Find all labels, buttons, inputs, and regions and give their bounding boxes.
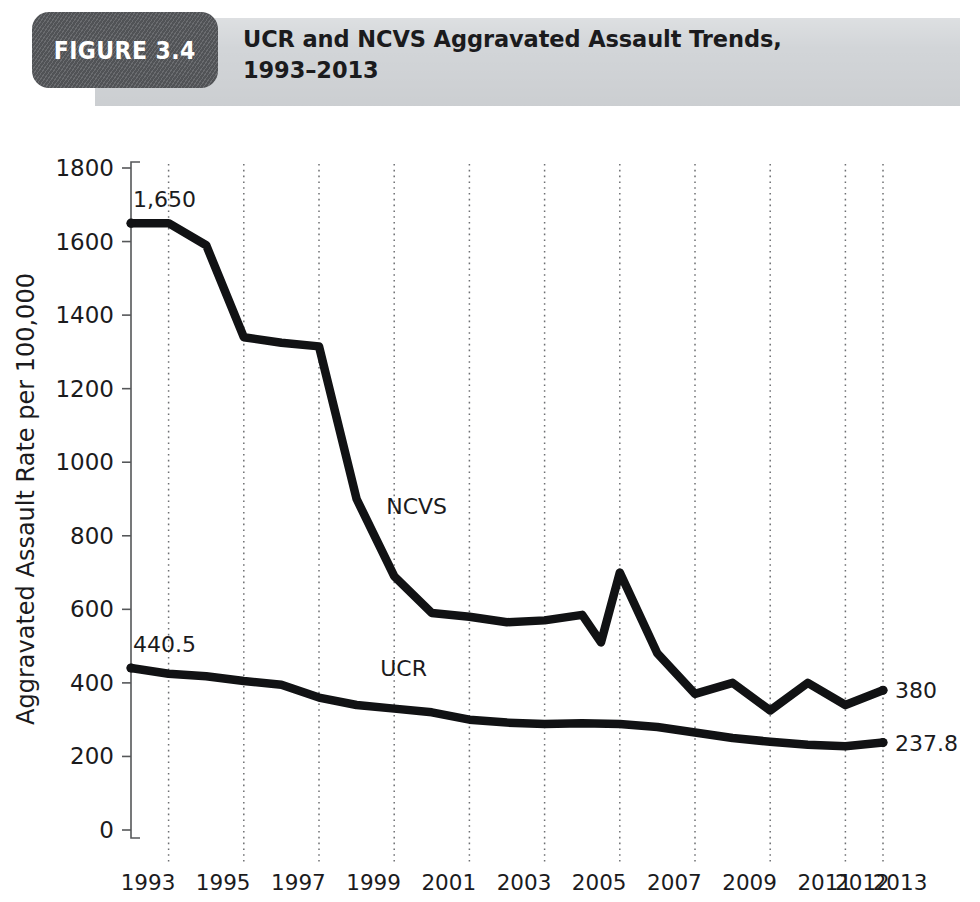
figure-number-badge: FIGURE 3.4	[32, 12, 218, 88]
y-tick-label: 1800	[55, 155, 114, 181]
line-chart: 020040060080010001200140016001800 199319…	[0, 130, 980, 902]
ncvs-end-value-label: 380	[895, 678, 937, 703]
x-tick-label: 2001	[421, 870, 476, 895]
x-tick-label: 1995	[196, 870, 251, 895]
x-tick-label: 1993	[121, 870, 176, 895]
ncvs-series-label: NCVS	[386, 494, 447, 519]
x-tick-label: 1999	[346, 870, 401, 895]
figure-title-line-2: 1993–2013	[243, 55, 943, 86]
series-endpoint-marker	[878, 686, 887, 695]
y-axis-title: Aggravated Assault Rate per 100,000	[12, 273, 40, 725]
series-endpoint-marker	[126, 663, 135, 672]
chart-plot-area: 020040060080010001200140016001800 199319…	[0, 130, 980, 902]
x-tick-label: 2007	[647, 870, 702, 895]
y-tick-label: 200	[70, 743, 114, 769]
y-tick-label: 1200	[55, 376, 114, 402]
y-tick-label: 800	[70, 523, 114, 549]
y-tick-label: 0	[99, 817, 114, 843]
series-endpoint-marker	[878, 738, 887, 747]
x-tick-label: 1997	[271, 870, 326, 895]
y-tick-label: 600	[70, 596, 114, 622]
x-tick-label: 2003	[497, 870, 552, 895]
data-series-group	[126, 219, 887, 748]
x-tick-label: 2009	[722, 870, 777, 895]
ucr-start-value-label: 440.5	[133, 632, 196, 657]
ncvs-start-value-label: 1,650	[133, 187, 196, 212]
y-tick-labels-group: 020040060080010001200140016001800	[55, 155, 131, 843]
x-tick-labels-group: 1993199519971999200120032005200720092011…	[121, 870, 928, 895]
y-tick-label: 1000	[55, 449, 114, 475]
annotations-group: 1,650440.5380237.8NCVSUCR	[133, 187, 958, 755]
y-tick-label: 1400	[55, 302, 114, 328]
axes-group	[131, 162, 140, 838]
figure-number-label: FIGURE 3.4	[54, 36, 196, 65]
series-endpoint-marker	[126, 219, 135, 228]
figure-title-line-1: UCR and NCVS Aggravated Assault Trends,	[243, 24, 943, 55]
y-tick-label: 1600	[55, 229, 114, 255]
figure-title: UCR and NCVS Aggravated Assault Trends, …	[243, 24, 943, 86]
ucr-end-value-label: 237.8	[895, 731, 958, 756]
x-tick-label: 2005	[572, 870, 627, 895]
figure-header: FIGURE 3.4 UCR and NCVS Aggravated Assau…	[0, 0, 980, 130]
y-axis-line	[131, 162, 140, 838]
gridlines-group	[169, 164, 883, 862]
x-tick-label: 2013	[873, 870, 928, 895]
y-tick-label: 400	[70, 670, 114, 696]
ucr-series-label: UCR	[380, 656, 427, 681]
